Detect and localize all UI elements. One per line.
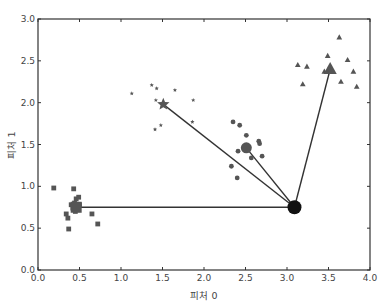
- triangle-point: [338, 79, 344, 84]
- circle-center-marker: [241, 142, 252, 153]
- star-point: [159, 123, 163, 127]
- star-point: [155, 86, 159, 90]
- square-point: [90, 212, 95, 217]
- connection-line: [163, 104, 294, 207]
- y-tick-label: 2.0: [21, 98, 36, 108]
- y-tick-label: 1.0: [21, 181, 36, 191]
- triangle-point: [325, 53, 331, 58]
- triangle-point: [345, 57, 351, 62]
- star-point: [173, 88, 177, 92]
- x-axis-label: 피처 0: [190, 290, 217, 301]
- star-point: [153, 127, 157, 131]
- x-tick-label: 1.5: [155, 273, 169, 283]
- star-point: [154, 98, 158, 102]
- circle-point: [244, 133, 249, 138]
- star-point: [191, 98, 195, 102]
- connection-line: [294, 69, 330, 207]
- star-point: [150, 83, 154, 87]
- triangle-center-marker: [324, 62, 337, 74]
- triangle-point: [336, 34, 342, 39]
- circle-point: [235, 176, 240, 181]
- star-point: [190, 120, 194, 124]
- y-axis-label: 피처 1: [6, 131, 17, 158]
- square-point: [64, 212, 69, 217]
- x-tick-label: 3.5: [321, 273, 335, 283]
- x-tick-label: 3.0: [280, 273, 295, 283]
- y-tick-label: 3.0: [21, 14, 36, 24]
- triangle-point: [351, 69, 357, 74]
- triangle-point: [300, 81, 306, 86]
- y-tick-label: 0.5: [21, 223, 35, 233]
- x-tick-label: 2.0: [197, 273, 212, 283]
- circle-point: [236, 149, 241, 154]
- axis-ticks: 0.00.51.01.52.02.53.03.54.00.00.51.01.52…: [21, 14, 378, 283]
- square-point: [76, 195, 81, 200]
- triangle-point: [354, 84, 360, 89]
- scatter-chart: 0.00.51.01.52.02.53.03.54.00.00.51.01.52…: [0, 0, 382, 305]
- y-tick-label: 1.5: [21, 140, 35, 150]
- y-tick-label: 0.0: [21, 265, 36, 275]
- square-center-marker: [71, 202, 82, 213]
- circle-point: [231, 120, 236, 125]
- x-tick-label: 1.0: [114, 273, 129, 283]
- x-tick-label: 4.0: [363, 273, 378, 283]
- plot-area: [51, 34, 359, 231]
- triangle-point: [295, 62, 301, 67]
- circle-point: [249, 155, 254, 160]
- connection-line: [246, 148, 294, 207]
- circle-point: [229, 164, 234, 169]
- star-point: [130, 91, 134, 95]
- x-tick-label: 2.5: [238, 273, 252, 283]
- square-point: [51, 186, 56, 191]
- square-point: [65, 216, 70, 221]
- triangle-point: [304, 64, 310, 69]
- square-point: [95, 222, 100, 227]
- axes-frame: [38, 19, 370, 270]
- y-tick-label: 2.5: [21, 56, 35, 66]
- query-point-marker: [287, 200, 301, 214]
- square-point: [66, 227, 71, 232]
- circle-point: [237, 123, 242, 128]
- circle-point: [257, 141, 262, 146]
- x-tick-label: 0.5: [72, 273, 86, 283]
- circle-point: [260, 154, 265, 159]
- square-point: [71, 186, 76, 191]
